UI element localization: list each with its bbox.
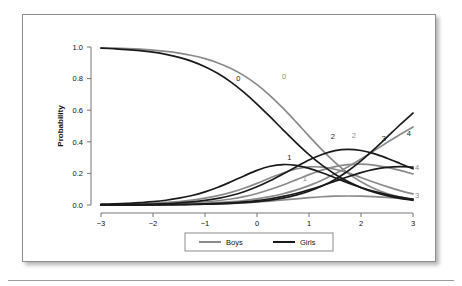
curve-label-boys-1: 1 — [303, 174, 307, 183]
curve-label-girls-3: 3 — [382, 134, 386, 143]
chart-area: I cried more than usual - Boys and Girls… — [23, 15, 435, 261]
legend-label-boys: Boys — [226, 238, 243, 247]
x-tick-label: 3 — [411, 219, 415, 228]
curve-label-girls-0: 0 — [236, 74, 240, 83]
x-tick-label: 1 — [307, 219, 311, 228]
bottom-divider — [8, 280, 454, 281]
x-tick-label: 0 — [255, 219, 259, 228]
curve-label-girls-4: 4 — [407, 129, 411, 138]
x-tick-label: 2 — [359, 219, 363, 228]
page-root: I cried more than usual - Boys and Girls… — [0, 0, 462, 286]
curve-label-boys-0: 0 — [282, 72, 286, 81]
curve-label-boys-4: 4 — [415, 163, 419, 172]
x-tick-label: −3 — [97, 219, 106, 228]
curve-label-boys-3: 3 — [415, 191, 419, 200]
y-tick-label: 0.2 — [73, 169, 83, 178]
x-tick-label: −1 — [201, 219, 210, 228]
y-tick-label: 1.0 — [73, 43, 83, 52]
curve-label-boys-2: 2 — [352, 131, 356, 140]
curve-label-girls-1: 1 — [287, 153, 291, 162]
y-tick-label: 0.0 — [73, 201, 83, 210]
y-axis-title: Probability — [56, 105, 65, 147]
y-tick-label: 0.6 — [73, 106, 83, 115]
x-tick-label: −2 — [149, 219, 158, 228]
chart-legend: BoysGirls — [185, 233, 333, 251]
curve-label-girls-2: 2 — [331, 132, 335, 141]
legend-label-girls: Girls — [300, 238, 316, 247]
y-tick-label: 0.8 — [73, 74, 83, 83]
probability-curves-plot: 0.00.20.40.60.81.0 −3−2−10123 0123401234… — [23, 15, 435, 261]
figure-frame: I cried more than usual - Boys and Girls… — [22, 14, 436, 262]
plot-background — [23, 15, 435, 261]
y-tick-label: 0.4 — [73, 138, 83, 147]
